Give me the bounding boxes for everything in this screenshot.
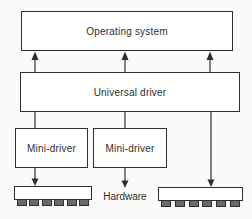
chip-body bbox=[158, 187, 243, 201]
node-universal-driver: Universal driver bbox=[20, 72, 240, 112]
node-mini-driver-1: Mini-driver bbox=[15, 128, 88, 168]
chip-body bbox=[14, 186, 92, 200]
node-universal-driver-label: Universal driver bbox=[94, 87, 167, 98]
chip-pin bbox=[17, 199, 27, 206]
chip-pin bbox=[29, 199, 39, 206]
arrowhead-up-mid bbox=[122, 52, 129, 61]
hardware-chip-right bbox=[158, 187, 243, 208]
chip-pin bbox=[202, 200, 212, 207]
chip-pin bbox=[175, 200, 185, 207]
driver-architecture-diagram: Operating system Universal driver Mini-d… bbox=[0, 0, 252, 219]
arrowhead-up-right bbox=[207, 52, 214, 61]
arrowhead-up-left bbox=[32, 52, 39, 61]
hardware-chip-left bbox=[14, 186, 92, 207]
chip-pin bbox=[230, 200, 240, 207]
chip-pin bbox=[54, 199, 64, 206]
chip-pin bbox=[216, 200, 226, 207]
chip-pin bbox=[42, 199, 52, 206]
hardware-label: Hardware bbox=[94, 191, 156, 202]
chip-pin bbox=[67, 199, 77, 206]
node-operating-system-label: Operating system bbox=[86, 26, 168, 37]
chip-pin bbox=[79, 199, 89, 206]
node-mini-driver-1-label: Mini-driver bbox=[27, 143, 76, 154]
arrowhead-down-left bbox=[32, 179, 39, 187]
chip-pin bbox=[189, 200, 199, 207]
chip-pins bbox=[161, 200, 240, 207]
node-operating-system: Operating system bbox=[21, 11, 233, 51]
node-mini-driver-2: Mini-driver bbox=[93, 128, 167, 168]
chip-pins bbox=[17, 199, 89, 206]
arrowhead-down-mid bbox=[122, 181, 129, 189]
chip-pin bbox=[161, 200, 171, 207]
arrowhead-down-right bbox=[208, 180, 215, 188]
node-mini-driver-2-label: Mini-driver bbox=[106, 143, 155, 154]
